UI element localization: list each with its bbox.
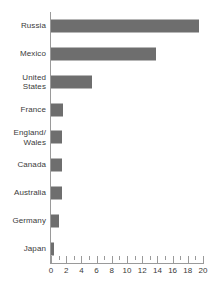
bar-track [51, 103, 203, 116]
bar [51, 103, 63, 116]
x-axis-major-tick [66, 256, 67, 263]
bar [51, 19, 199, 32]
bar-row: Australia [0, 179, 213, 207]
category-label: France [0, 105, 46, 114]
x-axis-minor-tick [74, 256, 75, 260]
x-axis-minor-tick [119, 256, 120, 260]
x-axis-tick-label: 10 [123, 266, 132, 276]
x-axis-major-tick [97, 256, 98, 263]
x-axis-tick-label: 0 [49, 266, 53, 276]
category-label: United States [0, 72, 46, 91]
x-axis-tick-label: 4 [79, 266, 83, 276]
x-axis-tick-label: 18 [183, 266, 192, 276]
bar [51, 131, 62, 144]
bar [51, 159, 62, 172]
bar-row: Canada [0, 151, 213, 179]
bar-row: United States [0, 68, 213, 96]
bar-track [51, 243, 203, 256]
x-axis-major-tick [173, 256, 174, 263]
category-label: Russia [0, 21, 46, 30]
bar-track [51, 47, 203, 60]
bar [51, 47, 156, 60]
x-axis-major-tick [81, 256, 82, 263]
bar [51, 187, 62, 200]
x-axis-ticks [51, 256, 203, 264]
bar-row: Mexico [0, 40, 213, 68]
bar-row: England/ Wales [0, 124, 213, 152]
bar-rows: RussiaMexicoUnited StatesFranceEngland/ … [0, 12, 213, 263]
bar-track [51, 215, 203, 228]
x-axis-minor-tick [150, 256, 151, 260]
x-axis-tick-label: 20 [199, 266, 208, 276]
x-axis-minor-tick [180, 256, 181, 260]
x-axis-tick-label: 16 [168, 266, 177, 276]
x-axis-minor-tick [59, 256, 60, 260]
category-label: Canada [0, 161, 46, 170]
x-axis-minor-tick [104, 256, 105, 260]
bar-row: Germany [0, 207, 213, 235]
bar [51, 243, 54, 256]
x-axis-tick-labels: 02468101214161820 [51, 266, 203, 280]
plot-area: RussiaMexicoUnited StatesFranceEngland/ … [0, 0, 213, 289]
x-axis-minor-tick [89, 256, 90, 260]
bar-track [51, 131, 203, 144]
category-label: England/ Wales [0, 128, 46, 147]
x-axis-minor-tick [165, 256, 166, 260]
x-axis-tick-label: 6 [94, 266, 98, 276]
x-axis-major-tick [188, 256, 189, 263]
x-axis-tick-label: 12 [138, 266, 147, 276]
x-axis-minor-tick [195, 256, 196, 260]
category-label: Japan [0, 244, 46, 253]
x-axis-major-tick [112, 256, 113, 263]
bar-row: Russia [0, 12, 213, 40]
horizontal-bar-chart: RussiaMexicoUnited StatesFranceEngland/ … [0, 0, 213, 289]
x-axis-major-tick [157, 256, 158, 263]
bar-row: France [0, 96, 213, 124]
bar-track [51, 159, 203, 172]
x-axis-major-tick [203, 256, 204, 263]
category-label: Mexico [0, 49, 46, 58]
x-axis-tick-label: 14 [153, 266, 162, 276]
x-axis-minor-tick [135, 256, 136, 260]
bar [51, 75, 92, 88]
x-axis-major-tick [142, 256, 143, 263]
bar-track [51, 19, 203, 32]
x-axis-major-tick [127, 256, 128, 263]
category-label: Germany [0, 217, 46, 226]
category-label: Australia [0, 189, 46, 198]
bar-track [51, 75, 203, 88]
x-axis-tick-label: 8 [110, 266, 114, 276]
bar [51, 215, 59, 228]
x-axis-tick-label: 2 [64, 266, 68, 276]
bar-track [51, 187, 203, 200]
x-axis-major-tick [51, 256, 52, 263]
